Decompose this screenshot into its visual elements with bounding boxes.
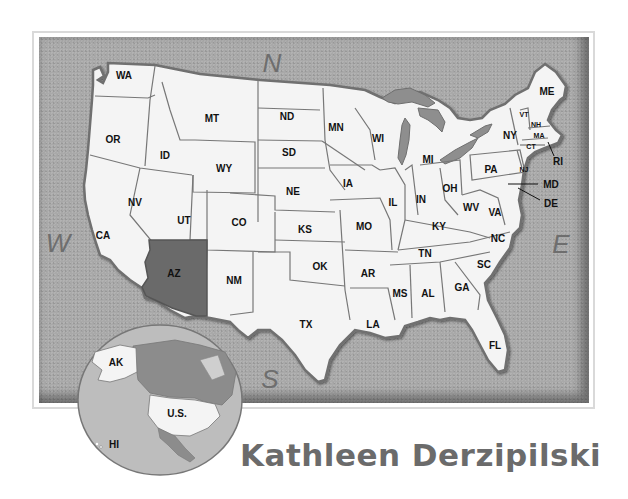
inset-label-ak: AK: [109, 357, 124, 368]
state-label-ny: NY: [503, 130, 517, 141]
state-label-ks: KS: [298, 224, 312, 235]
state-label-va: VA: [488, 207, 501, 218]
state-label-de: DE: [544, 198, 558, 209]
state-label-wi: WI: [372, 133, 384, 144]
state-label-mi: MI: [422, 154, 433, 165]
state-label-nc: NC: [491, 233, 505, 244]
state-label-tn: TN: [418, 248, 431, 259]
state-label-ms: MS: [393, 288, 408, 299]
compass-east: E: [552, 229, 570, 259]
state-label-al: AL: [421, 288, 434, 299]
state-label-in: IN: [416, 194, 426, 205]
state-label-il: IL: [389, 197, 398, 208]
state-label-mo: MO: [356, 221, 372, 232]
state-label-id: ID: [160, 150, 170, 161]
state-label-or: OR: [106, 134, 122, 145]
state-label-oh: OH: [443, 183, 458, 194]
author-name: Kathleen Derzipilski: [240, 437, 601, 473]
state-label-nv: NV: [128, 197, 142, 208]
state-label-wv: WV: [463, 202, 479, 213]
state-label-mn: MN: [328, 122, 344, 133]
globe-inset: AKU.S.HI: [78, 325, 242, 475]
state-label-me: ME: [540, 86, 555, 97]
state-label-ok: OK: [313, 261, 329, 272]
state-label-ia: IA: [343, 178, 353, 189]
state-label-tx: TX: [300, 319, 313, 330]
state-label-nm: NM: [226, 275, 242, 286]
state-label-pa: PA: [484, 164, 497, 175]
state-label-vt: VT: [520, 111, 530, 118]
state-label-co: CO: [232, 217, 247, 228]
state-label-ky: KY: [432, 221, 446, 232]
state-label-wy: WY: [216, 163, 232, 174]
state-label-sc: SC: [477, 259, 491, 270]
state-label-wa: WA: [116, 70, 132, 81]
state-label-ma: MA: [534, 132, 545, 139]
state-label-ut: UT: [177, 215, 190, 226]
state-label-ar: AR: [361, 268, 376, 279]
state-label-ga: GA: [455, 282, 470, 293]
state-label-ca: CA: [96, 230, 110, 241]
state-label-ri: RI: [553, 156, 563, 167]
compass-north: N: [263, 48, 282, 78]
inset-label-us: U.S.: [167, 408, 187, 419]
state-label-mt: MT: [205, 113, 219, 124]
state-label-nj: NJ: [520, 166, 529, 173]
state-label-sd: SD: [282, 147, 296, 158]
compass-west: W: [46, 228, 73, 258]
state-label-ct: CT: [526, 143, 536, 150]
us-map: WAORIDMTWYNDSDNEKSNVUTCOCAAZNMOKTXMNIAMO…: [0, 0, 628, 499]
state-label-az: AZ: [167, 268, 180, 279]
state-label-la: LA: [366, 319, 379, 330]
state-label-nd: ND: [280, 111, 294, 122]
compass-south: S: [261, 364, 279, 394]
state-label-ne: NE: [286, 186, 300, 197]
inset-label-hi: HI: [109, 439, 119, 450]
state-label-fl: FL: [489, 340, 501, 351]
state-label-nh: NH: [531, 121, 541, 128]
state-label-md: MD: [543, 179, 559, 190]
